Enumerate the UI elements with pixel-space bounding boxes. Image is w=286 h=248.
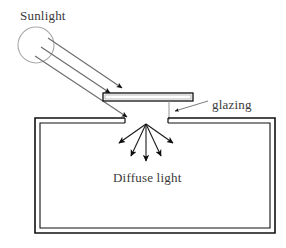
sunlight-ray-3 (35, 56, 127, 117)
diagram-canvas (0, 0, 286, 248)
sunlight-label: Sunlight (20, 8, 66, 24)
diffuse-light-rays (119, 124, 173, 161)
glazing-leader-line (175, 101, 208, 111)
sun-icon (18, 27, 54, 63)
sunlight-ray-2 (41, 47, 110, 93)
glazing-label: glazing (212, 97, 252, 113)
diffuse-light-label: Diffuse light (113, 170, 181, 186)
sunlight-ray-1 (48, 38, 122, 88)
daylighting-diagram: Sunlight glazing Diffuse light (0, 0, 286, 248)
glazing-panel-inner (105, 95, 191, 99)
